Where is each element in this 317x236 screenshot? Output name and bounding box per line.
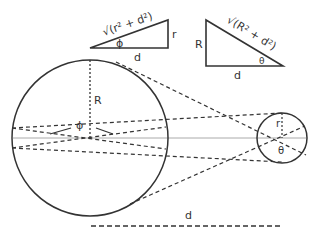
small-triangle: √(r² + d²) r d ϕ	[90, 10, 177, 64]
small-triangle-base-label: d	[134, 51, 141, 64]
distance-label: d	[185, 209, 192, 222]
large-triangle: √(R² + d²) R d θ	[195, 13, 283, 82]
large-circle-radius-label: R	[94, 94, 102, 107]
large-triangle-side-label: R	[195, 38, 203, 51]
small-triangle-angle-label: ϕ	[116, 37, 123, 50]
small-circle-radius-label: r	[276, 118, 281, 129]
distance-indicator: d	[91, 209, 281, 226]
small-circle-angle-label: θ	[278, 145, 284, 156]
large-circle-angle-label: ϕ	[76, 119, 83, 132]
small-triangle-side-label: r	[172, 28, 177, 41]
geometry-diagram: √(r² + d²) r d ϕ √(R² + d²) R d θ R ϕ r …	[0, 0, 317, 236]
sight-lines	[12, 62, 306, 204]
large-triangle-base-label: d	[234, 69, 241, 82]
large-triangle-angle-label: θ	[259, 56, 265, 66]
